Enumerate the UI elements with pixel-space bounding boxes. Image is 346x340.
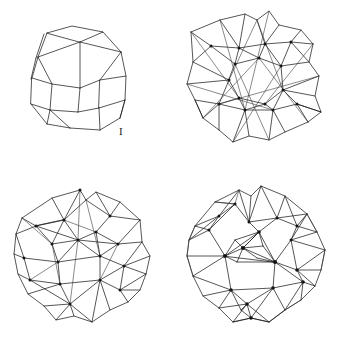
polyhedra-plate: I [0, 0, 346, 340]
polyhedron-ii-edges [187, 11, 321, 142]
figure-panel-iv: IV [173, 170, 346, 340]
polyhedron-i-drawing [0, 0, 173, 170]
polyhedron-iv-edges [187, 186, 325, 322]
figure-panel-i: I [0, 0, 173, 170]
polyhedron-iv-drawing [173, 170, 346, 340]
figure-label-i: I [119, 126, 123, 137]
figure-panel-ii: II [173, 0, 346, 170]
polyhedron-iii-drawing [0, 170, 173, 340]
polyhedron-ii-drawing [173, 0, 346, 170]
figure-panel-iii: III [0, 170, 173, 340]
polyhedron-i-edges [31, 26, 126, 130]
polyhedron-iii-edges [14, 190, 150, 322]
polyhedron-iii-vertices [23, 189, 126, 306]
